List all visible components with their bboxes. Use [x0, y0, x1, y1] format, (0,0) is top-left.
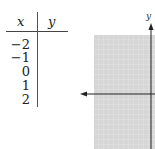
coordinate-grid: y — [0, 0, 155, 149]
x-axis-left-arrow-icon — [80, 92, 87, 97]
y-axis-up-arrow-icon — [149, 23, 154, 30]
grid-area — [94, 35, 155, 149]
y-axis-label: y — [145, 11, 152, 21]
